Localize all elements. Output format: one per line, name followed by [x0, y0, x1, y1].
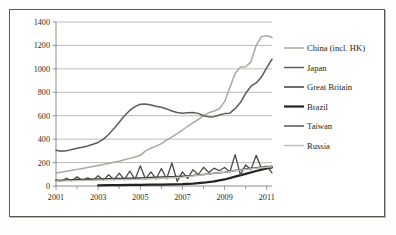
legend-label-china-incl-hk: China (incl. HK) [307, 43, 365, 53]
y-axis-tick-label: 200 [38, 159, 50, 168]
y-axis-tick-label: 400 [38, 135, 50, 144]
series-line-japan [56, 59, 272, 151]
line-chart-svg: 0200400600800100012001400200120032005200… [10, 10, 386, 218]
y-axis-tick-label: 600 [38, 112, 50, 121]
x-axis-tick-label: 2003 [90, 193, 106, 202]
y-axis-tick-label: 0 [46, 182, 50, 191]
chart-plot-container: 0200400600800100012001400200120032005200… [10, 10, 386, 218]
legend-label-great-britain: Great Britain [307, 82, 353, 92]
x-axis-tick-label: 2001 [48, 193, 64, 202]
y-axis-tick-label: 800 [38, 88, 50, 97]
chart-frame: 0200400600800100012001400200120032005200… [9, 9, 385, 217]
legend-label-russia: Russia [307, 141, 330, 151]
x-axis-tick-label: 2007 [174, 193, 190, 202]
legend-label-japan: Japan [307, 63, 327, 73]
y-axis-tick-label: 1200 [34, 41, 50, 50]
x-axis-tick-label: 2011 [259, 193, 275, 202]
legend-label-brazil: Brazil [307, 102, 329, 112]
y-axis-tick-label: 1000 [34, 65, 50, 74]
x-axis-tick-label: 2005 [132, 193, 148, 202]
chart-figure: 0200400600800100012001400200120032005200… [0, 0, 396, 235]
y-axis-tick-label: 1400 [34, 18, 50, 27]
x-axis-tick-label: 2009 [216, 193, 232, 202]
legend-label-taiwan: Taiwan [307, 121, 333, 131]
